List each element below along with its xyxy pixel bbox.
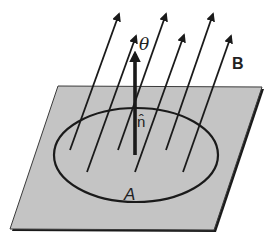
normal-label-n-hat: n̂ xyxy=(137,114,145,129)
flux-diagram: θ B n̂ A xyxy=(0,0,277,239)
theta-label: θ xyxy=(139,36,149,53)
field-label-b: B xyxy=(232,56,244,72)
area-label-a: A xyxy=(124,186,135,203)
